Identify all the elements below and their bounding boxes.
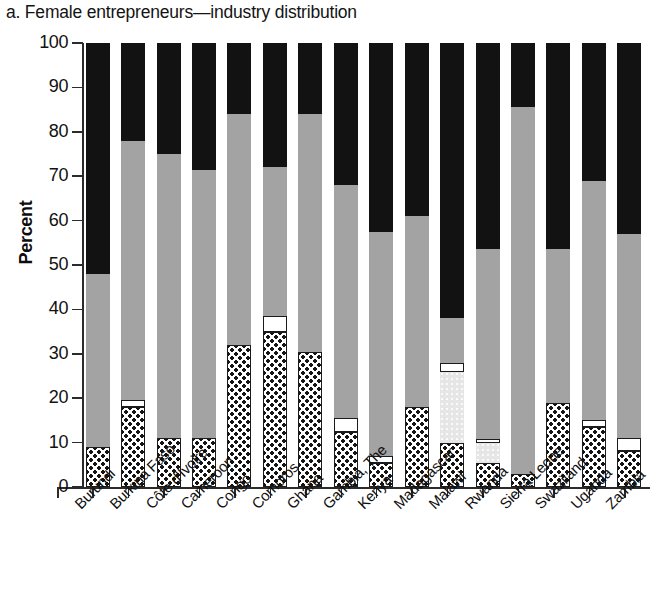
bar-segment-black bbox=[192, 43, 216, 170]
bar-madagascar[interactable] bbox=[405, 43, 429, 487]
bar-segment-gray bbox=[227, 114, 251, 345]
bar-segment-gray bbox=[192, 170, 216, 439]
bar-segment-black bbox=[546, 43, 570, 249]
bar-segment-gray bbox=[440, 318, 464, 362]
bar-segment-white bbox=[476, 439, 500, 443]
bar-burkina-faso[interactable] bbox=[121, 43, 145, 487]
bar-ghana[interactable] bbox=[298, 43, 322, 487]
bar-kenya[interactable] bbox=[369, 43, 393, 487]
y-tick-label: 70 bbox=[22, 165, 68, 186]
bar-segment-gray bbox=[263, 167, 287, 316]
chart-title: a. Female entrepreneurs—industry distrib… bbox=[6, 2, 357, 23]
bar-gambia-the[interactable] bbox=[334, 43, 358, 487]
y-tick-label: 30 bbox=[22, 343, 68, 364]
bar-comoros[interactable] bbox=[263, 43, 287, 487]
bar-segment-gray bbox=[86, 274, 110, 447]
y-tick-mark bbox=[72, 175, 83, 177]
bar-segment-black bbox=[121, 43, 145, 141]
bar-segment-black bbox=[582, 43, 606, 181]
bar-segment-gray bbox=[405, 216, 429, 407]
y-tick-mark bbox=[72, 42, 83, 44]
bar-segment-black bbox=[263, 43, 287, 167]
bar-segment-gray bbox=[369, 232, 393, 456]
bar-segment-white bbox=[334, 418, 358, 431]
y-tick-mark bbox=[72, 87, 83, 89]
bar-segment-black bbox=[227, 43, 251, 114]
bar-c-te-d-ivoire[interactable] bbox=[157, 43, 181, 487]
y-tick-label: 90 bbox=[22, 76, 68, 97]
bar-segment-black bbox=[334, 43, 358, 185]
bar-segment-black bbox=[405, 43, 429, 216]
y-tick-label: 50 bbox=[22, 254, 68, 275]
y-tick-mark bbox=[72, 309, 83, 311]
y-tick-mark bbox=[72, 442, 83, 444]
bar-segment-black bbox=[476, 43, 500, 249]
bar-sierra-leone[interactable] bbox=[511, 43, 535, 487]
bar-segment-black bbox=[440, 43, 464, 318]
bar-segment-gray bbox=[582, 181, 606, 421]
bar-congo[interactable] bbox=[227, 43, 251, 487]
y-tick-mark bbox=[72, 486, 83, 488]
bar-segment-white bbox=[617, 438, 641, 451]
bar-segment-dotted bbox=[298, 352, 322, 487]
bar-segment-black bbox=[511, 43, 535, 107]
bar-zambia[interactable] bbox=[617, 43, 641, 487]
y-tick-mark bbox=[72, 220, 83, 222]
y-tick-mark bbox=[72, 264, 83, 266]
bar-cameroon[interactable] bbox=[192, 43, 216, 487]
bar-segment-gray bbox=[121, 141, 145, 401]
y-tick-mark bbox=[72, 353, 83, 355]
bar-rwanda[interactable] bbox=[476, 43, 500, 487]
bar-burundi[interactable] bbox=[86, 43, 110, 487]
bar-segment-white bbox=[263, 316, 287, 332]
bar-segment-pale bbox=[476, 443, 500, 463]
bar-segment-black bbox=[157, 43, 181, 154]
bar-segment-gray bbox=[546, 249, 570, 402]
bar-segment-white bbox=[121, 400, 145, 407]
bar-segment-white bbox=[440, 363, 464, 372]
y-tick-mark bbox=[72, 131, 83, 133]
bar-segment-gray bbox=[157, 154, 181, 438]
y-tick-label: 60 bbox=[22, 210, 68, 231]
x-tick-mark bbox=[57, 488, 59, 498]
bar-segment-white bbox=[582, 420, 606, 427]
bar-segment-black bbox=[86, 43, 110, 274]
y-tick-label: 20 bbox=[22, 387, 68, 408]
y-tick-label: 80 bbox=[22, 121, 68, 142]
plot-area bbox=[83, 43, 650, 487]
bar-uganda[interactable] bbox=[582, 43, 606, 487]
bar-segment-gray bbox=[617, 234, 641, 438]
bar-segment-gray bbox=[298, 114, 322, 352]
bar-segment-gray bbox=[511, 107, 535, 473]
y-tick-label: 100 bbox=[22, 32, 68, 53]
bar-segment-gray bbox=[334, 185, 358, 418]
bar-segment-pale bbox=[440, 372, 464, 443]
bar-malawi[interactable] bbox=[440, 43, 464, 487]
y-tick-label: 40 bbox=[22, 298, 68, 319]
chart-figure: a. Female entrepreneurs—industry distrib… bbox=[0, 0, 654, 590]
bar-segment-gray bbox=[476, 249, 500, 439]
bar-segment-black bbox=[298, 43, 322, 114]
y-tick-label: 10 bbox=[22, 432, 68, 453]
y-tick-label: 0 bbox=[22, 476, 68, 497]
y-tick-mark bbox=[72, 397, 83, 399]
bar-segment-black bbox=[369, 43, 393, 232]
bar-segment-black bbox=[617, 43, 641, 234]
bar-swaziland[interactable] bbox=[546, 43, 570, 487]
